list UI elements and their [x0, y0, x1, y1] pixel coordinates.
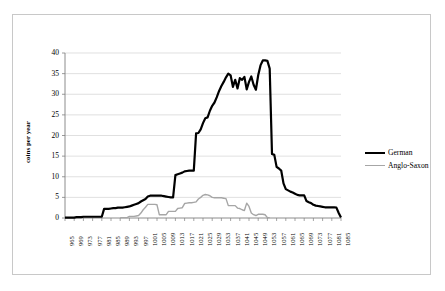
series-line-anglo-saxon: [120, 194, 270, 217]
plot-area: coins per year 0510152025303540 96596997…: [13, 15, 430, 274]
legend-swatch-anglo-saxon-icon: [365, 165, 385, 166]
legend-item-anglo-saxon: Anglo-Saxon: [365, 159, 445, 172]
legend-label-anglo-saxon: Anglo-Saxon: [388, 161, 429, 170]
legend: German Anglo-Saxon: [365, 146, 445, 172]
legend-label-german: German: [388, 148, 412, 157]
chart-frame: coins per year 0510152025303540 96596997…: [12, 14, 431, 275]
series-lines: [65, 60, 341, 217]
legend-swatch-german-icon: [365, 152, 385, 154]
gridlines: [65, 53, 341, 218]
series-line-german: [65, 60, 341, 217]
legend-item-german: German: [365, 146, 445, 159]
